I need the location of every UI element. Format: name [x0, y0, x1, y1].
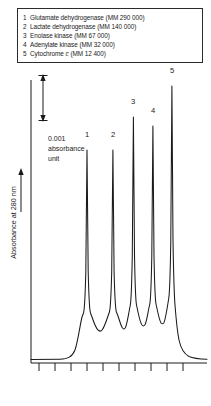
- scale-bar-unit-line2: unit: [48, 154, 85, 164]
- y-axis-arrow-icon: [18, 168, 23, 212]
- scale-bar-icon: [39, 74, 48, 122]
- peak-label-2: 2: [108, 130, 118, 139]
- legend-item: 1Glutamate dehydrogenase (MM 290 000): [23, 13, 198, 22]
- legend-item-italic: c: [66, 50, 69, 57]
- legend-item-label: Cytochrome: [30, 50, 64, 57]
- legend-item-label: Enolase kinase: [30, 32, 72, 39]
- y-axis-title-text: Absorbance at 280 nm: [9, 186, 18, 258]
- legend-item-number: 4: [23, 40, 30, 49]
- legend-item: 2Lactate dehydrogenase (MM 140 000): [23, 22, 198, 31]
- scale-bar-unit-line1: absorbance: [48, 144, 85, 154]
- chromatogram-svg: [0, 60, 211, 406]
- peak-label-3: 3: [128, 97, 138, 106]
- legend-item-mm: (MM 140 000): [97, 23, 136, 30]
- legend-item-mm: (MM 12 400): [70, 50, 106, 57]
- legend-item: 5Cytochrome c (MM 12 400): [23, 49, 198, 58]
- x-axis-ticks: [39, 363, 183, 371]
- legend-item-mm: (MM 32 000): [79, 41, 115, 48]
- legend-item-label: Glutamate dehydrogenase: [30, 14, 104, 21]
- scale-bar-label: 0.001 absorbance unit: [48, 134, 85, 165]
- peak-label-1: 1: [82, 130, 92, 139]
- legend-item: 3Enolase kinase (MM 67 000): [23, 31, 198, 40]
- legend-item-number: 5: [23, 49, 30, 58]
- peak-label-5: 5: [167, 66, 177, 75]
- legend-item-number: 2: [23, 22, 30, 31]
- legend-box: 1Glutamate dehydrogenase (MM 290 000) 2L…: [17, 8, 203, 63]
- figure-chromatogram: 1Glutamate dehydrogenase (MM 290 000) 2L…: [0, 0, 211, 406]
- legend-item-mm: (MM 290 000): [106, 14, 145, 21]
- scale-bar-value: 0.001: [48, 134, 85, 144]
- legend-item-label: Adenylate kinase: [30, 41, 78, 48]
- plot-area: Absorbance at 280 nm 0.001 absorbance un…: [0, 60, 211, 406]
- legend-item-number: 3: [23, 31, 30, 40]
- y-axis-title: Absorbance at 280 nm: [9, 148, 18, 298]
- chromatogram-trace: [31, 86, 207, 360]
- legend-item-label: Lactate dehydrogenase: [30, 23, 95, 30]
- legend-item: 4Adenylate kinase (MM 32 000): [23, 40, 198, 49]
- peak-label-4: 4: [148, 106, 158, 115]
- legend-item-mm: (MM 67 000): [74, 32, 110, 39]
- legend-item-number: 1: [23, 13, 30, 22]
